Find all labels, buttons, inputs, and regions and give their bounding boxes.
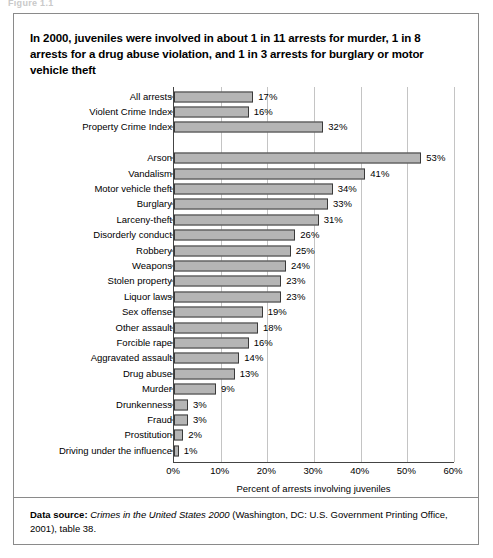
category-label: Violent Crime Index — [89, 107, 172, 117]
gridline — [314, 87, 315, 462]
category-label: Stolen property — [108, 276, 172, 286]
bar — [174, 230, 295, 241]
bar — [174, 168, 365, 179]
category-axis-labels: All arrestsViolent Crime IndexProperty C… — [14, 87, 172, 462]
data-source-note: Data source: Crimes in the United States… — [30, 508, 460, 536]
x-tick-label: 20% — [257, 465, 276, 476]
bar-value-label: 23% — [286, 276, 305, 286]
bar — [174, 384, 216, 395]
bar — [174, 183, 333, 194]
bar — [174, 307, 263, 318]
bar — [174, 260, 286, 271]
bar-value-label: 18% — [263, 323, 282, 333]
data-source-label: Data source: — [30, 509, 88, 520]
bar — [174, 353, 239, 364]
category-label: Sex offense — [122, 307, 172, 317]
category-label: Fraud — [147, 415, 172, 425]
bar-value-label: 2% — [188, 430, 202, 440]
bar-chart: All arrestsViolent Crime IndexProperty C… — [14, 87, 480, 497]
category-label: Driving under the influence — [59, 446, 172, 456]
category-label: Murder — [142, 384, 172, 394]
footer-divider — [14, 497, 478, 498]
bar-value-label: 32% — [328, 122, 347, 132]
category-label: Arson — [147, 153, 172, 163]
gridline — [361, 87, 362, 462]
plot-area: 17%16%32%53%41%34%33%31%26%25%24%23%23%1… — [173, 87, 454, 462]
bar — [174, 414, 188, 425]
bar — [174, 445, 179, 456]
bar — [174, 368, 235, 379]
x-tick-label: 50% — [397, 465, 416, 476]
x-axis-title: Percent of arrests involving juveniles — [173, 483, 454, 494]
bar-value-label: 17% — [258, 92, 277, 102]
x-tick-label: 10% — [210, 465, 229, 476]
bar — [174, 153, 421, 164]
category-label: All arrests — [130, 92, 172, 102]
bar-value-label: 9% — [221, 384, 235, 394]
bar-value-label: 3% — [193, 415, 207, 425]
bar-value-label: 16% — [254, 107, 273, 117]
category-label: Drunkenness — [116, 400, 172, 410]
bar-value-label: 3% — [193, 400, 207, 410]
bar — [174, 337, 249, 348]
x-tick-label: 40% — [350, 465, 369, 476]
category-label: Burglary — [137, 199, 172, 209]
bar-value-label: 16% — [254, 338, 273, 348]
category-label: Disorderly conduct — [93, 230, 172, 240]
data-source-title: Crimes in the United States 2000 — [90, 509, 229, 520]
category-label: Other assault — [116, 323, 173, 333]
bar-value-label: 41% — [370, 169, 389, 179]
bar — [174, 399, 188, 410]
bar — [174, 276, 281, 287]
category-label: Weapons — [132, 261, 172, 271]
bar-value-label: 53% — [426, 153, 445, 163]
bar-value-label: 1% — [184, 446, 198, 456]
x-axis-line — [173, 462, 454, 463]
bar-value-label: 19% — [268, 307, 287, 317]
bar — [174, 430, 183, 441]
bar-value-label: 24% — [291, 261, 310, 271]
chart-title: In 2000, juveniles were involved in abou… — [30, 30, 450, 78]
category-label: Prostitution — [124, 430, 172, 440]
category-label: Robbery — [136, 246, 172, 256]
bar-value-label: 34% — [338, 184, 357, 194]
bar — [174, 91, 253, 102]
x-tick-label: 60% — [443, 465, 462, 476]
category-label: Liquor laws — [124, 292, 172, 302]
category-label: Motor vehicle theft — [94, 184, 172, 194]
x-tick-label: 0% — [166, 465, 180, 476]
bar — [174, 322, 258, 333]
bar — [174, 291, 281, 302]
category-label: Drug abuse — [123, 369, 172, 379]
bar-value-label: 31% — [324, 215, 343, 225]
bar — [174, 245, 291, 256]
category-label: Property Crime Index — [82, 122, 172, 132]
bar — [174, 122, 323, 133]
gridline — [267, 87, 268, 462]
figure-caption: Figure 1.1 — [8, 0, 54, 8]
gridline — [454, 87, 455, 462]
category-label: Larceny-theft — [117, 215, 172, 225]
bar-value-label: 23% — [286, 292, 305, 302]
bar-value-label: 14% — [244, 353, 263, 363]
bar-value-label: 33% — [333, 199, 352, 209]
category-label: Vandalism — [128, 169, 172, 179]
figure-panel: In 2000, juveniles were involved in abou… — [13, 13, 479, 545]
bar — [174, 106, 249, 117]
bar-value-label: 25% — [296, 246, 315, 256]
gridline — [407, 87, 408, 462]
bar — [174, 214, 319, 225]
x-tick-label: 30% — [303, 465, 322, 476]
gridline — [221, 87, 222, 462]
bar — [174, 199, 328, 210]
bar-value-label: 13% — [240, 369, 259, 379]
bar-value-label: 26% — [300, 230, 319, 240]
category-label: Forcible rape — [117, 338, 172, 348]
category-label: Aggravated assault — [91, 353, 172, 363]
